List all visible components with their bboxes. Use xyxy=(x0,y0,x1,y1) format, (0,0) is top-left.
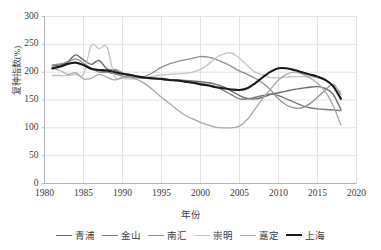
legend-label: 青浦 xyxy=(75,228,95,242)
legend-item-1[interactable]: 金山 xyxy=(102,228,141,242)
legend-label: 崇明 xyxy=(213,228,233,242)
legend-line-swatch-icon xyxy=(56,235,72,236)
x-axis-tick-label: 2010 xyxy=(259,188,299,198)
legend-label: 金山 xyxy=(121,228,141,242)
x-axis-tick-label: 1990 xyxy=(103,188,143,198)
legend-item-3[interactable]: 崇明 xyxy=(194,228,233,242)
x-axis-tick-label: 2000 xyxy=(181,188,221,198)
x-axis-tick-label: 2015 xyxy=(298,188,338,198)
legend-line-swatch-icon xyxy=(148,235,164,236)
legend-line-swatch-icon xyxy=(240,235,256,236)
y-axis-tick-label: 50 xyxy=(0,150,39,160)
y-axis-tick-label: 300 xyxy=(0,11,39,21)
legend-item-0[interactable]: 青浦 xyxy=(56,228,95,242)
chart-legend: 青浦金山南汇崇明嘉定上海 xyxy=(0,228,381,242)
gridlines xyxy=(45,17,357,184)
y-axis-title: 复种指数(%) xyxy=(10,26,23,116)
y-axis-tick-label: 100 xyxy=(0,122,39,132)
y-axis-tick-label: 0 xyxy=(0,178,39,188)
x-axis-tick-label: 1995 xyxy=(142,188,182,198)
legend-label: 南汇 xyxy=(167,228,187,242)
legend-line-swatch-icon xyxy=(194,235,210,236)
x-axis-tick-label: 1980 xyxy=(25,188,65,198)
legend-line-swatch-icon xyxy=(102,235,118,236)
legend-item-2[interactable]: 南汇 xyxy=(148,228,187,242)
legend-label: 上海 xyxy=(305,228,325,242)
x-axis-tick-label: 2020 xyxy=(337,188,377,198)
legend-item-4[interactable]: 嘉定 xyxy=(240,228,279,242)
x-axis-title: 年份 xyxy=(0,207,381,221)
x-axis-tick-label: 1985 xyxy=(64,188,104,198)
multiple-cropping-index-line-chart: 050100150200250300 198019851990199520002… xyxy=(0,0,381,250)
legend-label: 嘉定 xyxy=(259,228,279,242)
legend-line-swatch-icon xyxy=(286,234,302,236)
x-axis-tick-label: 2005 xyxy=(220,188,260,198)
data-series-lines xyxy=(52,44,341,128)
legend-item-5[interactable]: 上海 xyxy=(286,228,325,242)
